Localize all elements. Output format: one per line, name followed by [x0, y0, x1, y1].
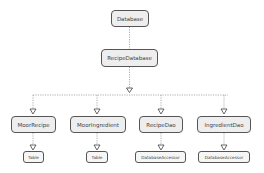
arrowhead-icon: [94, 109, 100, 114]
node-moor-recipe: MoorRecipe: [11, 116, 56, 133]
arrowhead-icon: [94, 145, 100, 150]
node-table: Table: [86, 151, 108, 163]
node-recipe-dao: RecipeDao: [139, 116, 183, 133]
node-database: Database: [111, 10, 149, 27]
arrowhead-icon: [221, 145, 227, 150]
arrowhead-icon: [158, 109, 164, 114]
arrowhead-icon: [30, 109, 36, 114]
node-moor-ingredient: MoorIngredient: [70, 116, 126, 133]
node-table: Table: [23, 151, 44, 163]
arrowhead-icon: [30, 145, 36, 150]
node-ingredient-dao: IngredientDao: [197, 116, 251, 133]
arrowhead-icon: [127, 88, 133, 93]
node-database-accessor: DatabaseAccessor: [198, 151, 250, 163]
node-database-accessor: DatabaseAccessor: [135, 151, 186, 163]
arrowhead-icon: [158, 145, 164, 150]
arrowhead-icon: [221, 109, 227, 114]
node-recipe-database: RecipeDatabase: [101, 49, 158, 67]
